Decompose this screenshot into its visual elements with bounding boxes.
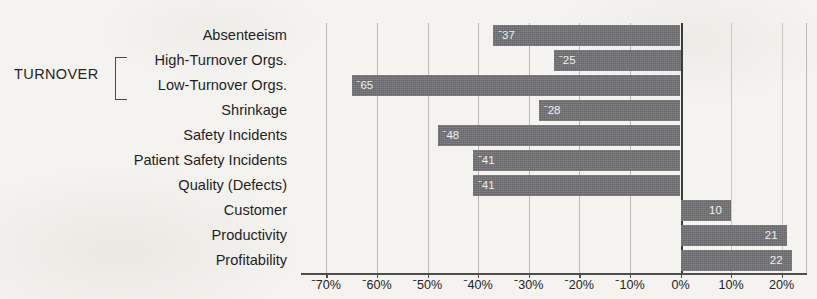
- x-tick-label: ˉ50%: [413, 278, 442, 292]
- x-tick-label: ˉ40%: [463, 278, 492, 292]
- bar-value-label: ˉ41: [478, 176, 495, 195]
- bar-value-label: ˉ48: [443, 126, 460, 145]
- bar[interactable]: [473, 150, 680, 171]
- bar-value-label: ˉ65: [357, 76, 374, 95]
- x-axis-tick: [428, 273, 429, 278]
- bar[interactable]: [473, 175, 680, 196]
- x-axis-tick: [782, 273, 783, 278]
- x-tick-label: ˉ20%: [565, 278, 594, 292]
- x-tick-label: ˉ70%: [312, 278, 341, 292]
- category-axis-labels: AbsenteeismHigh-Turnover Orgs.Low-Turnov…: [0, 23, 296, 273]
- x-axis-tick: [630, 273, 631, 278]
- category-label: Customer: [0, 198, 296, 223]
- bar-row[interactable]: ˉ41: [301, 148, 807, 173]
- x-tick-label: 10%: [718, 278, 743, 292]
- x-tick-label: 20%: [769, 278, 794, 292]
- category-label: High-Turnover Orgs.: [0, 48, 296, 73]
- chart-page: TURNOVER AbsenteeismHigh-Turnover Orgs.L…: [0, 0, 817, 299]
- bar-row[interactable]: ˉ41: [301, 173, 807, 198]
- bar[interactable]: [681, 200, 732, 221]
- bar-row[interactable]: ˉ65: [301, 73, 807, 98]
- bar[interactable]: [352, 75, 681, 96]
- bar-row[interactable]: ˉ28: [301, 98, 807, 123]
- bar-row[interactable]: ˉ48: [301, 123, 807, 148]
- x-axis-tick: [377, 273, 378, 278]
- x-axis-tick-labels: ˉ70%ˉ60%ˉ50%ˉ40%ˉ30%ˉ20%ˉ10%0%10%20%: [301, 278, 807, 298]
- x-axis-tick: [326, 273, 327, 278]
- bar-row[interactable]: ˉ37: [301, 23, 807, 48]
- bar-value-label: 21: [765, 226, 778, 245]
- bar-value-label: 22: [770, 251, 783, 270]
- x-axis-tick: [579, 273, 580, 278]
- x-tick-label: ˉ30%: [514, 278, 543, 292]
- bar[interactable]: [493, 25, 680, 46]
- bar-value-label: ˉ37: [498, 26, 515, 45]
- x-axis-tick: [681, 273, 682, 278]
- bar-row[interactable]: 22: [301, 248, 807, 273]
- category-label: Absenteeism: [0, 23, 296, 48]
- bar-row[interactable]: 10: [301, 198, 807, 223]
- category-label: Productivity: [0, 223, 296, 248]
- x-tick-label: ˉ60%: [362, 278, 391, 292]
- x-axis-tick: [529, 273, 530, 278]
- category-label: Patient Safety Incidents: [0, 148, 296, 173]
- bar-value-label: ˉ25: [559, 51, 576, 70]
- x-axis-tick: [478, 273, 479, 278]
- bar-row[interactable]: ˉ25: [301, 48, 807, 73]
- category-label: Safety Incidents: [0, 123, 296, 148]
- x-tick-label: 0%: [671, 278, 689, 292]
- category-label: Low-Turnover Orgs.: [0, 73, 296, 98]
- bar-row[interactable]: 21: [301, 223, 807, 248]
- bar-value-label: 10: [709, 201, 722, 220]
- plot-area: ˉ37ˉ25ˉ65ˉ28ˉ48ˉ41ˉ41102122: [301, 23, 807, 273]
- bar-value-label: ˉ41: [478, 151, 495, 170]
- category-label: Profitability: [0, 248, 296, 273]
- x-axis-tick: [731, 273, 732, 278]
- bar-value-label: ˉ28: [544, 101, 561, 120]
- x-tick-label: ˉ10%: [615, 278, 644, 292]
- bar[interactable]: [438, 125, 681, 146]
- category-label: Shrinkage: [0, 98, 296, 123]
- category-label: Quality (Defects): [0, 173, 296, 198]
